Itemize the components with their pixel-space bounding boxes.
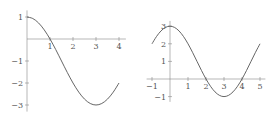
x-tick-label: 4 xyxy=(116,42,121,51)
y-tick-label: 1 xyxy=(18,13,23,22)
x-tick-label: 1 xyxy=(185,82,190,91)
x-tick-label: 2 xyxy=(203,82,208,91)
y-tick-label: 2 xyxy=(161,40,166,49)
y-tick-label: −2 xyxy=(11,79,23,88)
x-tick-label: 3 xyxy=(93,42,98,51)
right-plot: −112345321−1 xyxy=(138,0,276,115)
y-tick-label: −3 xyxy=(11,101,23,110)
x-tick-label: 2 xyxy=(70,42,75,51)
curve-line xyxy=(27,17,119,105)
y-tick-label: 1 xyxy=(161,57,166,66)
x-tick-label: 1 xyxy=(47,42,52,51)
x-tick-label: 3 xyxy=(221,82,226,91)
x-tick-label: 5 xyxy=(257,82,262,91)
x-tick-label: −1 xyxy=(146,82,158,91)
left-plot-svg: 12341−1−2−3 xyxy=(0,0,138,115)
left-plot: 12341−1−2−3 xyxy=(0,0,138,115)
y-tick-label: −1 xyxy=(11,57,23,66)
x-tick-label: 4 xyxy=(239,82,244,91)
y-tick-label: −1 xyxy=(154,93,166,102)
right-plot-svg: −112345321−1 xyxy=(138,0,276,115)
